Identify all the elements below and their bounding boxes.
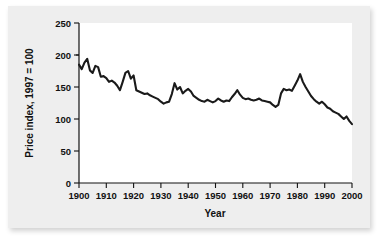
y-tick-label-150: 150 bbox=[55, 82, 71, 93]
x-tick-label-1920: 1920 bbox=[123, 190, 144, 201]
y-axis-title: Price index, 1997 = 100 bbox=[24, 48, 35, 158]
y-tick-label-250: 250 bbox=[55, 18, 71, 29]
x-axis-ticks bbox=[79, 183, 352, 188]
x-tick-label-1900: 1900 bbox=[68, 190, 89, 201]
x-tick-label-1950: 1950 bbox=[205, 190, 226, 201]
y-tick-label-0: 0 bbox=[66, 178, 71, 189]
y-axis: 250 200 150 100 50 0 Price index, 1997 =… bbox=[24, 18, 79, 189]
chart-svg: 250 200 150 100 50 0 Price index, 1997 =… bbox=[0, 0, 385, 242]
price-index-chart: 250 200 150 100 50 0 Price index, 1997 =… bbox=[0, 0, 385, 242]
x-tick-label-1930: 1930 bbox=[150, 190, 171, 201]
x-tick-label-1910: 1910 bbox=[96, 190, 117, 201]
x-axis-title: Year bbox=[204, 208, 225, 219]
y-axis-ticks bbox=[74, 23, 79, 183]
x-tick-label-1970: 1970 bbox=[260, 190, 281, 201]
x-tick-label-1960: 1960 bbox=[232, 190, 253, 201]
y-tick-label-50: 50 bbox=[60, 146, 71, 157]
x-tick-label-1940: 1940 bbox=[178, 190, 199, 201]
x-axis: 1900 1910 1920 1930 1940 1950 1960 1970 … bbox=[68, 183, 362, 219]
y-tick-label-100: 100 bbox=[55, 114, 71, 125]
y-tick-label-200: 200 bbox=[55, 50, 71, 61]
x-tick-label-2000: 2000 bbox=[341, 190, 362, 201]
x-tick-label-1990: 1990 bbox=[314, 190, 335, 201]
plot-background bbox=[79, 23, 352, 183]
x-tick-label-1980: 1980 bbox=[287, 190, 308, 201]
